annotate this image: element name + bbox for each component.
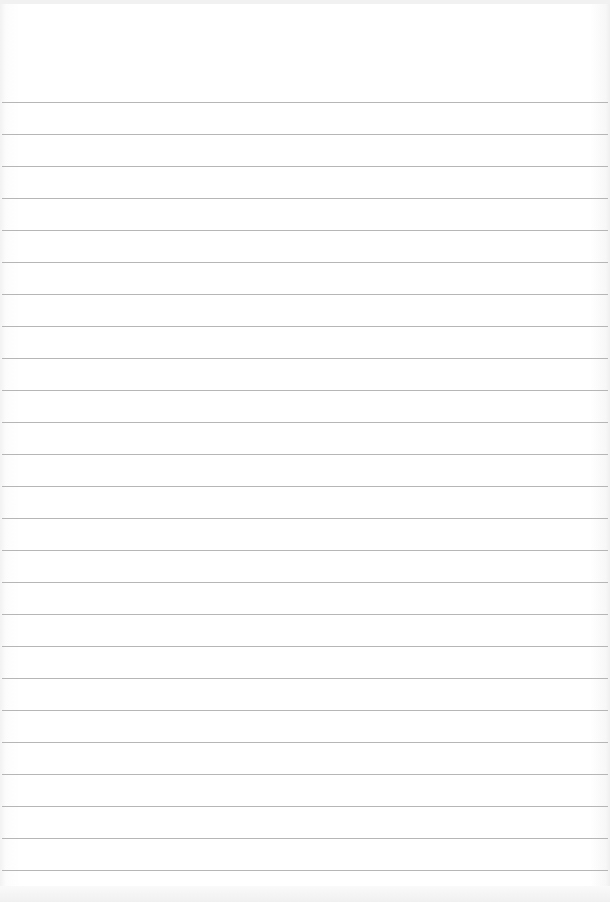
ruled-line [2, 518, 608, 519]
ruled-line [2, 230, 608, 231]
ruled-line [2, 262, 608, 263]
ruled-line [2, 582, 608, 583]
bottom-edge [0, 886, 610, 902]
ruled-line [2, 166, 608, 167]
ruled-line [2, 806, 608, 807]
ruled-line [2, 646, 608, 647]
ruled-line [2, 838, 608, 839]
ruled-line [2, 422, 608, 423]
ruled-line [2, 198, 608, 199]
ruled-line [2, 550, 608, 551]
ruled-line [2, 326, 608, 327]
ruled-line [2, 358, 608, 359]
ruled-line [2, 870, 608, 871]
ruled-line [2, 486, 608, 487]
ruled-line [2, 102, 608, 103]
ruled-line [2, 614, 608, 615]
ruled-line [2, 454, 608, 455]
ruled-line [2, 742, 608, 743]
ruled-line [2, 710, 608, 711]
ruled-line [2, 774, 608, 775]
ruled-line [2, 678, 608, 679]
top-edge [0, 0, 610, 4]
ruled-line [2, 390, 608, 391]
ruled-line [2, 294, 608, 295]
lined-paper-sheet [0, 0, 610, 902]
ruled-line [2, 134, 608, 135]
